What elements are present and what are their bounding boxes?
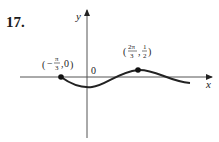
- svg-text:3: 3: [55, 64, 59, 72]
- svg-text:): ): [70, 59, 73, 71]
- svg-text:): ): [148, 46, 151, 58]
- svg-text:(: (: [42, 59, 46, 71]
- svg-text:2: 2: [143, 52, 147, 60]
- svg-text:π: π: [55, 55, 59, 63]
- svg-text:3: 3: [130, 52, 134, 60]
- svg-text:,: ,: [138, 46, 141, 57]
- point-max-label: ( 2π 3 , 1 2 ): [123, 43, 151, 60]
- svg-text:0: 0: [64, 58, 69, 69]
- x-axis-label: x: [205, 78, 211, 90]
- point-left-label: ( − π 3 , 0 ): [42, 55, 73, 72]
- point-left: [58, 74, 64, 80]
- y-axis-label: y: [75, 10, 81, 22]
- graph: y x 0 ( − π 3 , 0 ) ( 2π 3 , 1 2 ): [0, 0, 219, 142]
- svg-text:2π: 2π: [128, 43, 136, 51]
- svg-text:(: (: [123, 46, 127, 58]
- point-max: [135, 67, 141, 73]
- origin-label: 0: [91, 65, 96, 76]
- sinusoidal-curve: [61, 70, 190, 87]
- svg-text:1: 1: [143, 43, 147, 51]
- svg-text:−: −: [47, 58, 53, 69]
